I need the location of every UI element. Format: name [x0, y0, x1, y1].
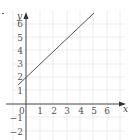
y-tick-label: 5: [17, 33, 23, 43]
y-tick-label: 3: [17, 59, 23, 69]
x-tick-label: 5: [91, 106, 97, 116]
x-tick-label: 4: [78, 106, 84, 116]
line-chart: y x 0 1 2 3 4 5 6 1 2 3 4 5 6 −1 −2: [0, 0, 130, 140]
y-tick-label: 1: [17, 86, 23, 96]
x-tick-label: 3: [64, 106, 70, 116]
x-tick-label: 1: [37, 106, 43, 116]
y-tick-labels: 1 2 3 4 5 6 −1 −2: [10, 19, 24, 137]
corner-mark: [2, 13, 4, 14]
y-tick-label: 2: [17, 72, 23, 82]
y-tick-label: −1: [10, 113, 23, 123]
y-tick-label: −2: [10, 127, 23, 137]
y-tick-label: 4: [17, 46, 23, 56]
x-tick-labels: 1 2 3 4 5 6: [37, 106, 110, 116]
axes: [6, 16, 124, 140]
x-axis-title: x: [123, 104, 128, 114]
grid: [13, 10, 125, 140]
x-tick-label: 6: [104, 106, 110, 116]
x-tick-label: 2: [51, 106, 57, 116]
y-tick-label: 6: [17, 19, 23, 29]
y-axis-arrow-icon: [24, 12, 29, 19]
